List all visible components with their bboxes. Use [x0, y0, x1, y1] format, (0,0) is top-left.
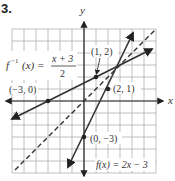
graph-canvas: x y (1, 2) (−3, 0) (2, 1) (0, −3) f(x) =… — [0, 0, 175, 181]
label-point-1-2: (1, 2) — [91, 46, 113, 58]
label-pointer-arrow — [97, 58, 101, 74]
inverse-label-denominator: 2 — [60, 68, 65, 79]
x-axis-label: x — [167, 94, 173, 106]
label-point-0-neg3: (0, −3) — [90, 133, 117, 145]
inverse-label-mid: (x) = — [22, 59, 44, 72]
label-point-neg3-0: (−3, 0) — [9, 84, 36, 96]
point-neg3-0 — [46, 99, 51, 104]
function-inverse-graph: 3. x y (1, 2) (−3, 0) (2, 1) — [0, 0, 175, 181]
inverse-label-sup: −1 — [11, 57, 19, 65]
point-1-2 — [94, 75, 99, 80]
point-2-1 — [106, 87, 111, 92]
y-axis-label: y — [79, 4, 85, 16]
label-point-2-1: (2, 1) — [113, 83, 135, 95]
inverse-label-numerator: x + 3 — [51, 53, 73, 64]
problem-number: 3. — [1, 1, 12, 16]
point-0-neg3 — [82, 135, 87, 140]
function-label: f(x) = 2x − 3 — [96, 159, 148, 171]
